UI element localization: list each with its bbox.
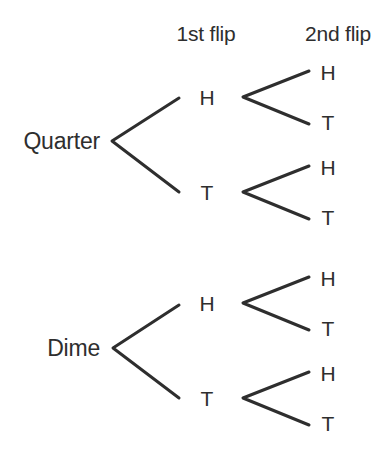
node-quarter-tt: T — [322, 207, 335, 228]
node-dime-first-flip-tails: T — [201, 388, 214, 409]
node-dime-th: H — [320, 363, 335, 384]
node-quarter-first-flip-tails: T — [201, 182, 214, 203]
branch-dime-t — [243, 372, 309, 425]
node-dime-tt: T — [322, 413, 335, 434]
branch-quarter-t — [243, 166, 309, 219]
coin-flip-tree-diagram: 1st flip 2nd flip Quarter Dime H T H T H… — [0, 0, 389, 456]
branch-quarter-h — [243, 71, 309, 124]
node-quarter-ht: T — [322, 112, 335, 133]
node-dime-first-flip-heads: H — [199, 293, 214, 314]
node-dime-ht: T — [322, 318, 335, 339]
branch-dime-h — [243, 277, 309, 330]
branch-quarter-root — [112, 98, 179, 192]
node-quarter-hh: H — [320, 62, 335, 83]
root-label-quarter: Quarter — [23, 130, 100, 153]
node-dime-hh: H — [320, 268, 335, 289]
node-quarter-th: H — [320, 157, 335, 178]
column-header-first-flip: 1st flip — [176, 23, 235, 44]
branch-dime-root — [113, 305, 179, 398]
node-quarter-first-flip-heads: H — [199, 87, 214, 108]
column-header-second-flip: 2nd flip — [305, 23, 371, 44]
root-label-dime: Dime — [47, 337, 100, 360]
